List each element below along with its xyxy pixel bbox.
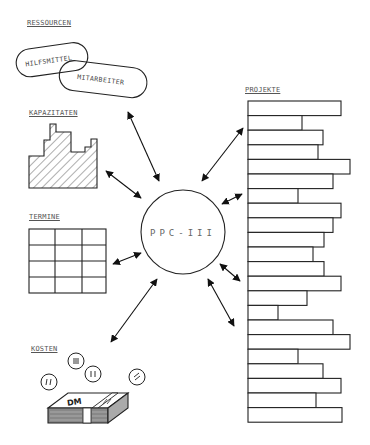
- project-bar: [248, 320, 333, 335]
- center-node: PPC-III: [141, 190, 225, 274]
- pill-mitarbeiter: MITARBEITER: [58, 59, 149, 100]
- project-bar: [248, 159, 350, 174]
- project-bar: [248, 203, 341, 218]
- coin-icon: [41, 374, 57, 390]
- project-bar: [248, 247, 313, 262]
- project-bar: [248, 262, 324, 277]
- arrow-projekte-2: [222, 194, 242, 204]
- project-bar: [248, 393, 316, 408]
- money-stack-icon: DM: [48, 393, 128, 423]
- arrow-projekte-3: [220, 264, 240, 281]
- ressourcen-group: HILFSMITTEL MITARBEITER: [14, 41, 148, 100]
- kosten-illustration: DM: [41, 353, 145, 423]
- project-bar: [248, 378, 341, 393]
- coin-icon: [129, 369, 145, 385]
- project-bar: [248, 408, 342, 423]
- project-bar: [248, 276, 341, 291]
- project-bar: [248, 305, 278, 320]
- arrow-kapazitaeten: [106, 171, 141, 198]
- projekte-bars: [248, 101, 350, 422]
- arrow-kosten: [111, 279, 157, 342]
- project-bar: [248, 145, 318, 160]
- project-bar: [248, 101, 341, 116]
- center-label: PPC-III: [150, 228, 216, 238]
- project-bar: [248, 174, 333, 189]
- project-bar: [248, 364, 323, 379]
- project-bar: [248, 116, 302, 131]
- project-bar: [248, 335, 350, 350]
- project-bar: [248, 291, 307, 306]
- project-bar: [248, 130, 323, 145]
- project-bar: [248, 189, 298, 204]
- project-bar: [248, 218, 333, 233]
- arrow-projekte-1: [202, 128, 243, 181]
- diagram-canvas: HILFSMITTEL MITARBEITER: [0, 0, 370, 445]
- arrow-termine: [113, 253, 141, 264]
- project-bar: [248, 232, 324, 247]
- kapazitaeten-chart: [29, 124, 97, 188]
- arrow-ressourcen: [128, 112, 159, 181]
- coin-icon: [85, 366, 101, 382]
- project-bar: [248, 349, 298, 364]
- termine-grid: [29, 229, 106, 293]
- coin-icon: [68, 353, 84, 369]
- arrow-projekte-4: [208, 279, 234, 326]
